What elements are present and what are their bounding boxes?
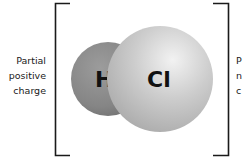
right-bracket xyxy=(213,4,229,156)
left-bracket xyxy=(56,4,71,156)
chlorine-atom: Cl xyxy=(107,26,213,132)
hcl-molecule-diagram: H Cl xyxy=(0,0,243,166)
chlorine-symbol: Cl xyxy=(147,67,171,92)
